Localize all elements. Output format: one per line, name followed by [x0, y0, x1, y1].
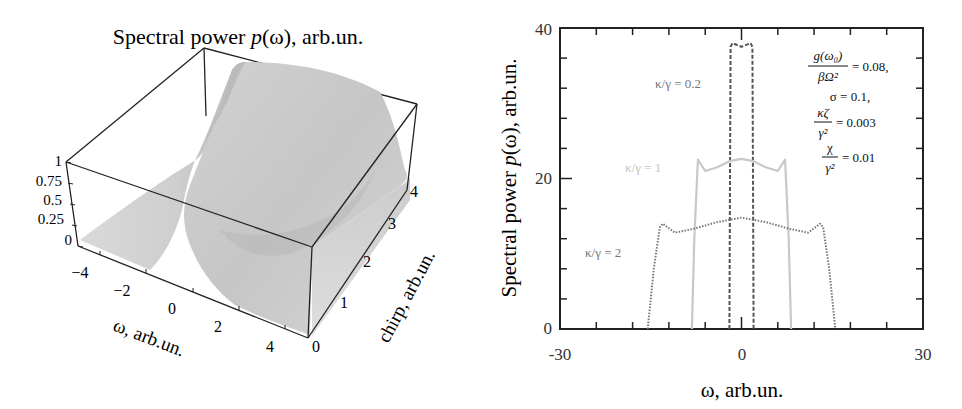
svg-text:30: 30	[915, 345, 932, 364]
parameter-annotations: g(ω₀) βΩ² = 0.08, σ = 0.1, κζ γ² = 0.003…	[808, 48, 889, 175]
svg-text:2: 2	[363, 253, 371, 270]
svg-text:βΩ²: βΩ²	[817, 69, 839, 84]
svg-text:0.75: 0.75	[36, 173, 62, 189]
svg-text:= 0.003: = 0.003	[836, 115, 876, 130]
x-axis-title: ω, arb.un.	[701, 378, 784, 402]
svg-text:−4: −4	[71, 264, 88, 281]
series-line-kappa-2	[648, 218, 836, 329]
series-label-kappa-1: κ/γ = 1	[625, 160, 661, 175]
svg-text:0: 0	[544, 319, 553, 338]
svg-text:g(ω₀): g(ω₀)	[814, 48, 843, 63]
svg-text:κζ: κζ	[817, 105, 829, 120]
y-axis-title: chirp, arb.un.	[373, 247, 439, 346]
svg-text:0.25: 0.25	[38, 211, 64, 227]
y-axis-title: Spectral power p(ω), arb.un.	[497, 59, 521, 298]
svg-text:= 0.08,: = 0.08,	[852, 59, 889, 74]
svg-text:40: 40	[535, 20, 552, 39]
surface-title: Spectral power p(ω), arb.un.	[113, 24, 363, 49]
svg-text:= 0.01: = 0.01	[842, 150, 875, 165]
svg-text:0: 0	[65, 232, 73, 248]
series-label-kappa-2: κ/γ = 2	[585, 245, 621, 260]
svg-text:σ = 0.1,: σ = 0.1,	[830, 89, 870, 104]
svg-text:20: 20	[535, 169, 552, 188]
series-line-kappa-0.2	[729, 43, 753, 329]
series-line-kappa-1	[692, 159, 791, 329]
svg-text:1: 1	[340, 294, 348, 311]
svg-text:1: 1	[55, 153, 63, 169]
svg-text:4: 4	[410, 183, 418, 200]
svg-text:γ²: γ²	[818, 125, 828, 140]
x-axis-title: ω, arb.un.	[111, 314, 188, 360]
line-plot: 0 20 40 -30 0 30 ω, arb.un. Spectral pow…	[480, 0, 962, 409]
svg-text:0: 0	[312, 338, 320, 355]
y-tick-labels: 0 20 40	[535, 20, 552, 338]
series-label-kappa-0.2: κ/γ = 0.2	[655, 76, 701, 91]
svg-text:0: 0	[168, 300, 176, 317]
svg-text:γ²: γ²	[825, 160, 835, 175]
x-tick-labels: -30 0 30	[549, 345, 932, 364]
svg-text:3: 3	[388, 215, 396, 232]
svg-text:2: 2	[214, 318, 222, 335]
surface-plot-panel: Spectral power p(ω), arb.un.	[0, 0, 480, 409]
svg-text:4: 4	[266, 338, 274, 355]
svg-text:-30: -30	[549, 345, 572, 364]
surface-plateau	[184, 62, 407, 335]
svg-text:χ: χ	[826, 140, 833, 155]
svg-text:−2: −2	[113, 282, 130, 299]
svg-text:0.5: 0.5	[43, 192, 62, 208]
line-plot-panel: 0 20 40 -30 0 30 ω, arb.un. Spectral pow…	[480, 0, 962, 409]
svg-text:0: 0	[738, 345, 747, 364]
surface-plot: Spectral power p(ω), arb.un.	[0, 0, 480, 409]
